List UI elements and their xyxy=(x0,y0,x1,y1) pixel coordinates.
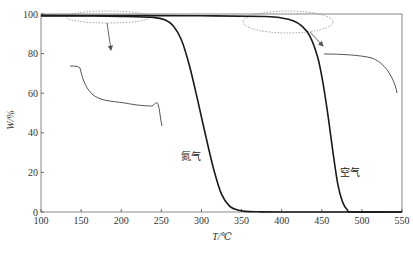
nitrogen-label: 氮气 xyxy=(181,150,201,162)
tga-chart: 1001502002503003504004505005500204060801… xyxy=(0,0,413,253)
zoom-insets xyxy=(66,11,397,126)
x-tick-label: 450 xyxy=(314,215,329,226)
y-tick-label: 20 xyxy=(28,167,38,178)
y-tick-label: 40 xyxy=(28,127,38,138)
x-tick-label: 400 xyxy=(274,215,289,226)
x-tick-label: 500 xyxy=(354,215,369,226)
axis-ticks: 1001502002503003504004505005500204060801… xyxy=(23,9,410,227)
left-inset-curve xyxy=(70,66,162,126)
y-tick-label: 0 xyxy=(33,207,38,218)
nitrogen-curve xyxy=(41,16,402,212)
x-tick-label: 350 xyxy=(234,215,249,226)
x-tick-label: 200 xyxy=(114,215,129,226)
x-tick-label: 250 xyxy=(154,215,169,226)
y-tick-label: 80 xyxy=(28,48,38,59)
x-tick-label: 300 xyxy=(194,215,209,226)
plot-border xyxy=(41,14,402,212)
left-inset-arrow-icon xyxy=(107,23,111,50)
x-tick-label: 550 xyxy=(395,215,410,226)
right-inset-curve xyxy=(324,54,397,93)
y-tick-label: 60 xyxy=(28,88,38,99)
data-series xyxy=(41,15,402,212)
plot-frame xyxy=(41,14,402,212)
x-tick-label: 150 xyxy=(74,215,89,226)
x-axis-title: T/℃ xyxy=(212,231,232,242)
air-label: 空气 xyxy=(340,166,360,178)
y-axis-title: W/% xyxy=(5,110,16,129)
air-curve xyxy=(41,15,402,212)
y-tick-label: 100 xyxy=(23,9,38,20)
